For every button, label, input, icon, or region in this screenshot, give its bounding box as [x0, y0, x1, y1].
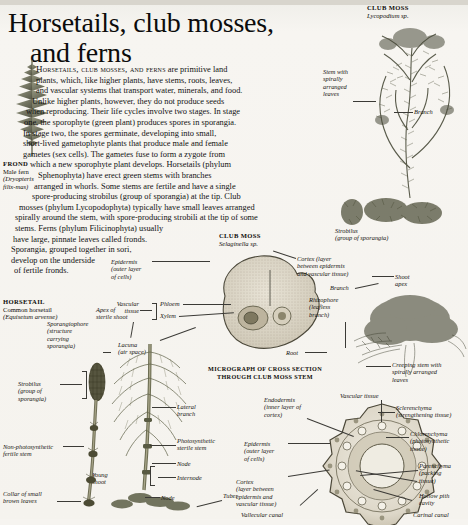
horsetail-lateral-branch-leader: [152, 407, 176, 408]
body-line-5: one, the sporophyte (green plant) produc…: [24, 118, 328, 129]
club-moss-lycopodium-caption: CLUB MOSS Lycopodium sp.: [367, 4, 463, 19]
horsetail-chlorenchyma-label: Chlorenchyma (photosynthetic tissue): [410, 430, 468, 452]
horsetail-sporangiophore-label: Sporangiophore (structure carrying spora…: [47, 320, 103, 350]
horsetail-apex-label-1: Apex of: [96, 306, 115, 313]
horsetail-photosynthetic-stem-leader: [150, 445, 176, 446]
frond-caption-common: Male fern: [3, 168, 29, 175]
selaginella-creeping-stem-label-2: spirally arranged: [392, 368, 437, 375]
horsetail-pith-cavity-label-1: Hollow pith: [419, 492, 449, 499]
micrograph-caption: MICROGRAPH OF CROSS SECTION THROUGH CLUB…: [200, 365, 330, 380]
horsetail-vallecular-label: Vallecular canal: [241, 511, 283, 518]
selaginella-epidermis-label-1: Epidermis: [111, 258, 137, 265]
horsetail-cortex-label-3: epidermis and: [236, 493, 272, 500]
lycopodium-branch-leader: [394, 112, 413, 113]
horsetail-parenchyma-label-2: (packing: [419, 469, 441, 476]
micrograph-caption-line-2: THROUGH CLUB MOSS STEM: [217, 373, 313, 380]
horsetail-lateral-branch-label-2: branch: [177, 410, 195, 417]
body-line-12: spore-producing strobilus (group of spor…: [32, 192, 328, 203]
horsetail-collar-label-2: brown leaves: [3, 497, 37, 504]
body-line-8: gametes (sex cells). The gametes fuse to…: [23, 150, 328, 161]
horsetail-cortex-label: Cortex (layer between epidermis and vasc…: [236, 478, 292, 508]
lycopodium-stem-label-4: leaves: [323, 90, 339, 97]
selaginella-shoot-apex-label: Shoot apex: [395, 273, 433, 288]
body-line-9: which a new sporophyte plant develops. H…: [30, 160, 328, 171]
club-moss-selaginella-caption: CLUB MOSS Selaginella sp.: [219, 232, 299, 247]
selaginella-shoot-apex-label-2: apex: [395, 280, 407, 287]
selaginella-rhizophore-label-2: (leafless: [309, 303, 330, 310]
horsetail-strobilus-label-3: sporangia): [18, 395, 46, 402]
horsetail-sporangiophore-label-1: Sporangiophore: [47, 320, 88, 327]
selaginella-epidermis-leader: [152, 261, 210, 262]
horsetail-node-upper-label: Node: [177, 460, 191, 467]
body-line-13: mosses (phylum Lycopodophyta) typically …: [19, 203, 328, 214]
horsetail-cortex-label-4: vascular tissue): [236, 500, 276, 507]
horsetail-sclerenchyma-label-2: (strengthening tissue): [396, 411, 451, 418]
club-moss-selaginella-title: CLUB MOSS: [219, 232, 299, 240]
selaginella-vascular-bracket: [152, 303, 157, 320]
horsetail-epidermis-label-3: of cells): [244, 455, 264, 462]
horsetail-pith-cavity-label-2: cavity: [419, 499, 434, 506]
club-moss-selaginella-latin: Selaginella sp.: [219, 240, 299, 248]
selaginella-creeping-stem-label-1: Creeping stem with: [392, 361, 441, 368]
horsetail-collar-label: Collar of small brown leaves: [3, 490, 59, 505]
horsetail-fertile-stem-label: Non-photosynthetic fertile stem: [3, 443, 63, 458]
selaginella-creeping-stem-label-3: leaves: [392, 376, 408, 383]
lycopodium-illustration: [352, 18, 468, 200]
page-title-line-1: Horsetails, club mosses,: [8, 7, 274, 38]
horsetail-internode-leader: [158, 477, 176, 478]
horsetail-endodermis-label-3: cortex): [264, 411, 282, 418]
selaginella-branch-label: Branch: [330, 284, 349, 291]
selaginella-phloem-label: Phloem: [160, 300, 180, 307]
selaginella-rhizophore-label-3: branch): [309, 311, 329, 318]
horsetail-epidermis-leader: [288, 443, 330, 444]
selaginella-rhizophore-label: Rhizophore (leafless branch): [309, 296, 355, 318]
horsetail-sclerenchyma-leader: [378, 412, 395, 413]
micrograph-caption-line-1: MICROGRAPH OF CROSS SECTION: [208, 365, 322, 372]
horsetail-cortex-label-1: Cortex: [236, 478, 253, 485]
selaginella-rhizophore-leader: [345, 322, 346, 348]
selaginella-epidermis-label-2: (outer layer: [111, 265, 141, 272]
selaginella-creeping-stem-leader: [366, 366, 391, 367]
lycopodium-strobilus-label-2: (group of sporangia): [335, 234, 388, 241]
selaginella-cortex-label-3: and vascular tissue): [297, 270, 348, 277]
body-line-10: Sphenophyta) have erect green stems with…: [38, 171, 328, 182]
body-line-4: when reproducing. Their life cycles invo…: [26, 107, 328, 118]
horsetail-endodermis-label-2: (inner layer of: [264, 403, 301, 410]
lycopodium-stem-label-3: arranged: [323, 83, 347, 90]
horsetail-lateral-branch-label-1: Lateral: [177, 403, 196, 410]
lycopodium-stem-label: Stem with spirally arranged leaves: [323, 68, 367, 98]
horsetail-parenchyma-label-3: tissue): [419, 477, 436, 484]
selaginella-rhizophore-label-1: Rhizophore: [309, 296, 338, 303]
lycopodium-strobilus-illustration: [336, 196, 456, 228]
horsetail-fertile-stem-label-2: fertile stem: [3, 450, 32, 457]
horsetail-parenchyma-label: Parenchyma (packing tissue): [419, 462, 467, 484]
horsetail-fertile-stem-label-1: Non-photosynthetic: [3, 443, 53, 450]
lycopodium-strobilus-label: Strobilus (group of sporangia): [335, 227, 417, 242]
club-moss-lycopodium-title: CLUB MOSS: [367, 4, 463, 12]
horsetail-caption-common: Common horsetail: [3, 306, 52, 313]
horsetail-endodermis-label: Endodermis (inner layer of cortex): [264, 396, 320, 418]
horsetail-strobilus-label: Strobilus (group of sporangia): [18, 380, 66, 402]
lycopodium-stem-label-1: Stem with: [323, 68, 348, 75]
selaginella-root-leader: [305, 352, 327, 353]
body-line-11: arranged in whorls. Some stems are ferti…: [34, 182, 328, 193]
selaginella-epidermis-label-3: of cells): [111, 273, 131, 280]
horsetail-cortex-label-2: (layer between: [236, 485, 274, 492]
body-line-1: plants, which, like higher plants, have …: [36, 76, 328, 87]
body-lead-small-caps: Horsetails, club mosses, and ferns: [36, 64, 166, 74]
horsetail-collar-label-1: Collar of small: [3, 490, 42, 497]
selaginella-root-label: Root: [286, 349, 298, 356]
selaginella-cortex-label: Cortex (layer between epidermis and vasc…: [297, 255, 367, 277]
lycopodium-stem-label-2: spirally: [323, 75, 343, 82]
horsetail-chlorenchyma-label-2: (photosynthetic: [410, 437, 449, 444]
body-line-14: spirally around the stem, with spore-pro…: [15, 213, 328, 224]
horsetail-internode-bracket: [150, 466, 155, 486]
horsetail-pith-cavity-label: Hollow pith cavity: [419, 492, 467, 507]
horsetail-lateral-branch-label: Lateral branch: [177, 403, 217, 418]
horsetail-internode-label: Internode: [177, 474, 202, 481]
horsetail-photosynthetic-stem-label: Photosynthetic sterile stem: [177, 437, 233, 452]
horsetail-node-upper-leader: [152, 463, 176, 464]
body-line-0: are primitive land: [166, 65, 228, 74]
body-line-3: Unlike higher plants, however, they do n…: [32, 97, 328, 108]
horsetail-endodermis-label-1: Endodermis: [264, 396, 295, 403]
